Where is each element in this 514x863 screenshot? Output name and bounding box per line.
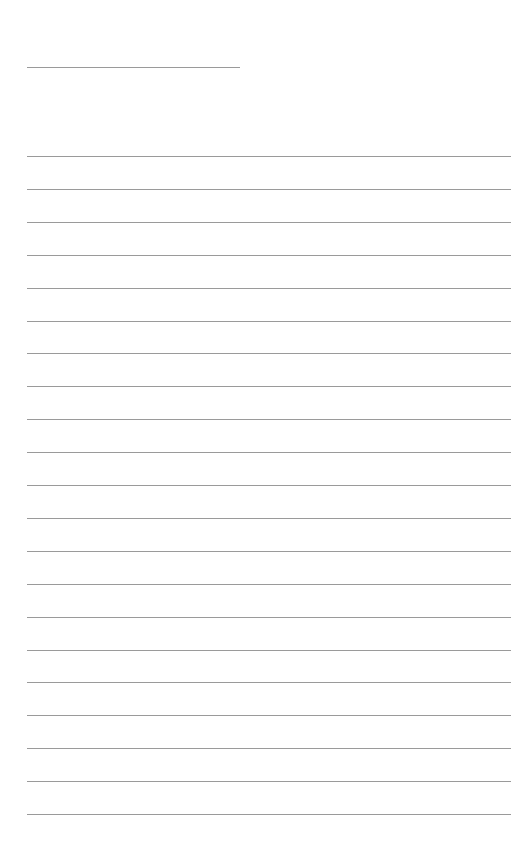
ruled-line: [27, 353, 511, 354]
ruled-line: [27, 321, 511, 322]
ruled-line: [27, 682, 511, 683]
ruled-line: [27, 518, 511, 519]
ruled-line: [27, 452, 511, 453]
ruled-line: [27, 255, 511, 256]
ruled-line: [27, 715, 511, 716]
ruled-line: [27, 748, 511, 749]
ruled-line: [27, 584, 511, 585]
ruled-line: [27, 551, 511, 552]
ruled-line: [27, 485, 511, 486]
ruled-line: [27, 814, 511, 815]
ruled-line: [27, 650, 511, 651]
ruled-line: [27, 386, 511, 387]
ruled-line: [27, 189, 511, 190]
header-name-line: [27, 67, 240, 68]
ruled-line: [27, 156, 511, 157]
ruled-line: [27, 288, 511, 289]
ruled-line: [27, 781, 511, 782]
ruled-line: [27, 617, 511, 618]
ruled-line: [27, 222, 511, 223]
ruled-line: [27, 419, 511, 420]
